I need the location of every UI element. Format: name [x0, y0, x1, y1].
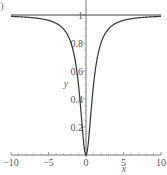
x-tick-label: 10: [156, 157, 166, 168]
x-tick-label: −10: [3, 157, 19, 168]
y-axis-label: y: [63, 78, 69, 89]
chart: ) −10−505100.20.40.60.81 x y: [0, 0, 167, 175]
x-axis-label: x: [121, 163, 127, 174]
x-tick-label: 0: [84, 157, 89, 168]
y-tick-label: 0.2: [71, 122, 84, 133]
y-tick-label: 0.4: [71, 94, 84, 105]
panel-label: ): [0, 0, 4, 12]
ticks: −10−505100.20.40.60.81: [3, 10, 166, 169]
axes: [11, 0, 161, 157]
x-tick-label: −5: [43, 157, 54, 168]
